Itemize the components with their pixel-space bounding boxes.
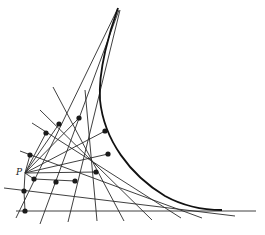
- tangent-line: [25, 124, 59, 173]
- foot-point-dot: [76, 115, 81, 120]
- foot-point-dot: [22, 208, 27, 213]
- foot-point-dot: [93, 169, 98, 174]
- tangent-line: [25, 131, 105, 173]
- tangent-lines: [4, 8, 256, 224]
- foot-point-dot: [105, 151, 110, 156]
- tangent-line: [25, 118, 79, 173]
- foot-point-dot: [53, 179, 58, 184]
- envelope-curve: [100, 8, 222, 210]
- foot-point-dot: [72, 178, 77, 183]
- foot-point-dot: [43, 130, 48, 135]
- foot-point-dot: [56, 121, 61, 126]
- foot-point-dot: [21, 188, 26, 193]
- point-p-label: P: [15, 167, 23, 177]
- foot-point-dot: [31, 176, 36, 181]
- pedal-curve-diagram: P: [0, 0, 265, 235]
- tangent-line: [32, 123, 181, 218]
- foot-point-dot: [27, 152, 32, 157]
- tangent-line: [24, 191, 25, 211]
- tangent-line: [25, 172, 96, 173]
- tangent-line: [24, 173, 25, 191]
- foot-point-dot: [102, 128, 107, 133]
